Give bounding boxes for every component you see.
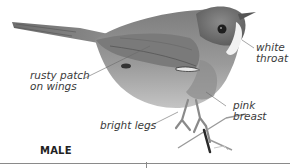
annotation-white-throat-line2: throat [256,53,288,64]
leader-line-white-throat [242,40,254,48]
bottom-divider [0,163,290,164]
annotation-rusty-patch: rusty patch on wings [30,70,90,92]
annotation-pink-breast: pink breast [233,100,266,122]
leader-line-pink-breast [206,92,226,106]
annotation-bright-legs: bright legs [100,120,156,131]
sex-label: MALE [40,145,72,156]
annotation-pink-breast-line2: breast [233,111,266,122]
annotation-white-throat: white throat [256,42,288,64]
bird-figure: rusty patch on wings white throat pink b… [0,0,290,168]
divider-tick [146,162,147,168]
annotation-rusty-patch-line2: on wings [30,81,90,92]
annotation-bright-legs-line1: bright legs [100,120,156,131]
